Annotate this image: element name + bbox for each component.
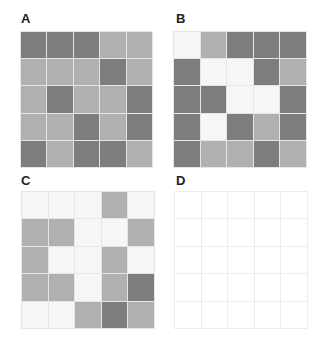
grid-cell xyxy=(281,247,307,273)
grid-cell xyxy=(127,86,152,112)
grid-cell xyxy=(47,32,72,58)
grid-cell xyxy=(100,86,125,112)
grid-cell xyxy=(49,302,75,328)
grid-cell xyxy=(202,302,228,328)
grid-cell xyxy=(280,32,306,58)
grid-cell xyxy=(174,141,200,167)
grid-cell xyxy=(47,59,72,85)
grid-cell xyxy=(255,247,281,273)
grid-cell xyxy=(255,302,281,328)
grid-cell xyxy=(280,141,306,167)
grid-cell xyxy=(228,192,254,218)
grid-cell xyxy=(201,59,227,85)
grid-cell xyxy=(47,114,72,140)
grid-cell xyxy=(280,86,306,112)
grid-cell xyxy=(102,302,128,328)
grid-cell xyxy=(127,59,152,85)
grid-cell xyxy=(227,59,253,85)
panel-a-grid xyxy=(20,31,153,168)
grid-cell xyxy=(281,192,307,218)
grid-cell xyxy=(254,141,280,167)
grid-cell xyxy=(22,302,48,328)
grid-cell xyxy=(228,302,254,328)
grid-cell xyxy=(75,247,101,273)
grid-cell xyxy=(102,247,128,273)
grid-cell xyxy=(174,86,200,112)
grid-cell xyxy=(100,32,125,58)
grid-cell xyxy=(102,192,128,218)
grid-cell xyxy=(127,32,152,58)
grid-cell xyxy=(174,32,200,58)
grid-cell xyxy=(202,247,228,273)
grid-cell xyxy=(75,192,101,218)
grid-cell xyxy=(128,247,154,273)
grid-cell xyxy=(255,192,281,218)
grid-cell xyxy=(74,59,99,85)
grid-cell xyxy=(228,274,254,300)
grid-cell xyxy=(201,32,227,58)
grid-cell xyxy=(228,219,254,245)
grid-cell xyxy=(202,192,228,218)
grid-cell xyxy=(21,114,46,140)
grid-cell xyxy=(254,86,280,112)
grid-cell xyxy=(49,219,75,245)
grid-cell xyxy=(22,192,48,218)
panel-d-grid xyxy=(174,191,308,329)
grid-cell xyxy=(201,114,227,140)
grid-cell xyxy=(22,247,48,273)
grid-cell xyxy=(227,32,253,58)
grid-cell xyxy=(254,114,280,140)
grid-cell xyxy=(100,114,125,140)
grid-cell xyxy=(127,141,152,167)
grid-cell xyxy=(281,274,307,300)
panel-c-label: C xyxy=(21,173,30,188)
grid-cell xyxy=(254,59,280,85)
grid-cell xyxy=(174,114,200,140)
grid-cell xyxy=(128,219,154,245)
grid-cell xyxy=(254,32,280,58)
grid-cell xyxy=(281,219,307,245)
grid-cell xyxy=(202,219,228,245)
grid-cell xyxy=(102,274,128,300)
grid-cell xyxy=(74,32,99,58)
grid-cell xyxy=(47,86,72,112)
grid-cell xyxy=(102,219,128,245)
grid-cell xyxy=(100,59,125,85)
grid-cell xyxy=(100,141,125,167)
grid-cell xyxy=(21,59,46,85)
grid-cell xyxy=(281,302,307,328)
grid-cell xyxy=(21,32,46,58)
grid-cell xyxy=(22,219,48,245)
grid-cell xyxy=(255,219,281,245)
grid-cell xyxy=(49,192,75,218)
grid-cell xyxy=(75,274,101,300)
grid-cell xyxy=(201,86,227,112)
grid-cell xyxy=(228,247,254,273)
grid-cell xyxy=(49,247,75,273)
grid-cell xyxy=(280,59,306,85)
grid-cell xyxy=(227,114,253,140)
grid-cell xyxy=(255,274,281,300)
grid-cell xyxy=(49,274,75,300)
grid-cell xyxy=(74,86,99,112)
grid-cell xyxy=(21,141,46,167)
grid-cell xyxy=(47,141,72,167)
grid-cell xyxy=(175,247,201,273)
grid-cell xyxy=(75,302,101,328)
panel-b-label: B xyxy=(176,11,185,26)
grid-cell xyxy=(201,141,227,167)
grid-cell xyxy=(74,141,99,167)
grid-cell xyxy=(227,141,253,167)
grid-cell xyxy=(127,114,152,140)
grid-cell xyxy=(128,192,154,218)
panel-b-grid xyxy=(173,31,307,168)
grid-cell xyxy=(227,86,253,112)
grid-cell xyxy=(128,274,154,300)
grid-cell xyxy=(128,302,154,328)
grid-cell xyxy=(75,219,101,245)
panel-a-label: A xyxy=(21,11,30,26)
grid-cell xyxy=(174,59,200,85)
grid-cell xyxy=(175,192,201,218)
grid-cell xyxy=(21,86,46,112)
grid-cell xyxy=(202,274,228,300)
